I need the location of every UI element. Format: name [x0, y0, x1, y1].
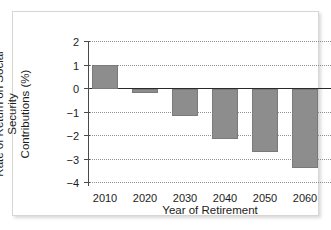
bar-2010[interactable] [92, 65, 118, 89]
y-tick-label-1: 1 [73, 60, 79, 71]
x-tick-label-2050: 2050 [253, 193, 277, 204]
y-tick-label-0: 0 [73, 84, 79, 95]
y-tick-2: 2 [84, 41, 90, 42]
gridline-neg4 [89, 182, 331, 183]
x-tick-label-2060: 2060 [293, 193, 317, 204]
y-tick-neg1: −1 [84, 112, 90, 113]
gridline-1 [89, 65, 331, 66]
y-tick-label-neg3: −3 [66, 154, 79, 165]
gridline-2 [89, 41, 331, 42]
y-tick-0: 0 [84, 88, 90, 89]
y-tick-1: 1 [84, 65, 90, 66]
plot-area: 2 1 0 −1 −2 −3 −4 [89, 41, 331, 186]
y-tick-label-neg4: −4 [66, 178, 79, 189]
x-tick-label-2030: 2030 [173, 193, 197, 204]
y-tick-label-neg1: −1 [66, 107, 79, 118]
y-tick-neg2: −2 [84, 135, 90, 136]
bar-2040[interactable] [212, 89, 238, 139]
y-axis-title: Rate of Return on Social Security Contri… [0, 40, 32, 188]
figure-frame: Rate of Return on Social Security Contri… [12, 11, 319, 216]
y-tick-label-2: 2 [73, 37, 79, 48]
y-tick-neg4: −4 [84, 182, 90, 183]
bar-2060[interactable] [292, 89, 318, 168]
x-tick-label-2010: 2010 [93, 193, 117, 204]
y-axis-title-line-1: Rate of Return on Social Security [0, 40, 19, 188]
chart-screenshot: Rate of Return on Social Security Contri… [0, 0, 331, 230]
bar-2050[interactable] [252, 89, 278, 152]
y-tick-neg3: −3 [84, 159, 90, 160]
y-tick-label-neg2: −2 [66, 131, 79, 142]
x-tick-label-2040: 2040 [213, 193, 237, 204]
bar-2030[interactable] [172, 89, 198, 116]
x-axis-title: Year of Retirement [89, 204, 331, 216]
bar-2020[interactable] [132, 89, 158, 93]
x-tick-label-2020: 2020 [133, 193, 157, 204]
y-axis-title-line-2: Contributions (%) [19, 40, 32, 188]
